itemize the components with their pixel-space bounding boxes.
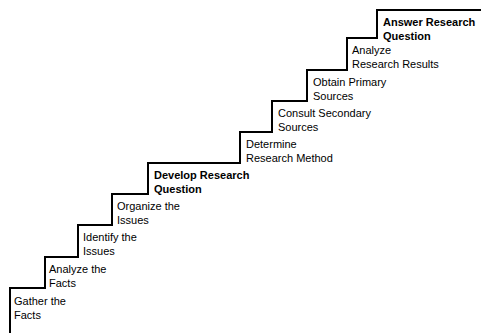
step-label-line1: Identify the	[83, 231, 137, 245]
step-label-analyze-research-results: Analyze Research Results	[352, 44, 439, 71]
step-label-line1: Obtain Primary	[313, 76, 386, 90]
step-label-line1: Gather the	[14, 295, 66, 309]
step-label-analyze-the-facts: Analyze the Facts	[49, 263, 106, 290]
step-label-line1: Answer Research	[383, 16, 475, 30]
step-label-gather-the-facts: Gather the Facts	[14, 295, 66, 322]
step-label-line2: Research Method	[246, 152, 333, 166]
step-label-line2: Facts	[14, 309, 66, 323]
step-label-line2: Research Results	[352, 58, 439, 72]
step-label-line2: Facts	[49, 277, 106, 291]
step-label-line1: Analyze	[352, 44, 439, 58]
research-process-staircase-diagram: Gather the Facts Analyze the Facts Ident…	[0, 0, 481, 333]
step-label-identify-the-issues: Identify the Issues	[83, 231, 137, 258]
step-label-line2: Issues	[117, 214, 180, 228]
step-label-line2: Issues	[83, 245, 137, 259]
step-label-line2: Question	[383, 30, 475, 44]
step-label-line2: Sources	[313, 90, 386, 104]
step-label-organize-the-issues: Organize the Issues	[117, 200, 180, 227]
step-label-obtain-primary-sources: Obtain Primary Sources	[313, 76, 386, 103]
step-label-develop-research-question: Develop Research Question	[154, 169, 249, 196]
step-label-line2: Sources	[278, 121, 371, 135]
step-label-line1: Determine	[246, 138, 333, 152]
step-label-line2: Question	[154, 183, 249, 197]
step-label-line1: Develop Research	[154, 169, 249, 183]
step-label-line1: Consult Secondary	[278, 107, 371, 121]
step-label-consult-secondary-sources: Consult Secondary Sources	[278, 107, 371, 134]
step-label-line1: Organize the	[117, 200, 180, 214]
step-label-line1: Analyze the	[49, 263, 106, 277]
step-label-answer-research-question: Answer Research Question	[383, 16, 475, 43]
step-label-determine-research-method: Determine Research Method	[246, 138, 333, 165]
